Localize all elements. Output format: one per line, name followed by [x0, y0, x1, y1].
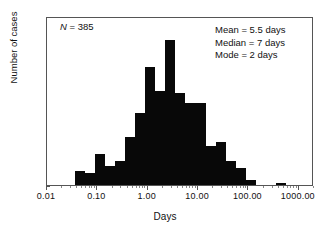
x-tick-label: 1.00 [138, 191, 156, 201]
x-tick-minor-mark [243, 186, 244, 188]
x-tick-mark [46, 186, 47, 190]
x-tick-minor-mark [81, 186, 82, 188]
x-tick-minor-mark [120, 186, 121, 188]
histogram-bar [276, 183, 286, 185]
x-tick-minor-mark [290, 186, 291, 188]
x-tick-minor-mark [189, 186, 190, 188]
x-tick-label: 10.00 [185, 191, 209, 201]
histogram-bar [206, 146, 216, 185]
x-tick-mark [247, 186, 248, 190]
x-tick-minor-mark [287, 186, 288, 188]
x-tick-mark [197, 186, 198, 190]
x-tick-minor-mark [85, 186, 86, 188]
x-tick-minor-mark [127, 186, 128, 188]
x-axis-title: Days [0, 211, 330, 222]
histogram-bar [236, 168, 246, 185]
x-tick-minor-mark [182, 186, 183, 188]
x-tick-minor-mark [192, 186, 193, 188]
x-tick-minor-mark [221, 186, 222, 188]
histogram-bar [175, 93, 185, 185]
histogram-bar [95, 154, 105, 185]
x-tick-minor-mark [263, 186, 264, 188]
x-tick-minor-mark [186, 186, 187, 188]
n-value: = 385 [67, 21, 94, 32]
histogram-bar [115, 161, 125, 185]
x-tick-minor-mark [61, 186, 62, 188]
x-tick-mark [96, 186, 97, 190]
x-tick-label: 1000.00 [281, 191, 315, 201]
x-tick-minor-mark [313, 186, 314, 188]
histogram-bar [85, 173, 95, 185]
x-tick-minor-mark [139, 186, 140, 188]
x-tick-minor-mark [142, 186, 143, 188]
x-tick-minor-mark [227, 186, 228, 188]
statistics-annotation: Mean = 5.5 days Median = 7 days Mode = 2… [215, 24, 286, 62]
histogram-bar [145, 67, 155, 185]
histogram-bar [155, 91, 165, 185]
x-tick-minor-mark [76, 186, 77, 188]
histogram-bar [105, 166, 115, 185]
x-tick-minor-mark [232, 186, 233, 188]
x-tick-minor-mark [171, 186, 172, 188]
n-symbol: N [60, 21, 67, 32]
x-tick-minor-mark [162, 186, 163, 188]
x-tick-minor-mark [177, 186, 178, 188]
x-tick-minor-mark [296, 186, 297, 188]
x-tick-minor-mark [278, 186, 279, 188]
mode-label: Mode = 2 days [215, 49, 286, 62]
x-tick-label: 0.10 [87, 191, 105, 201]
x-tick-label: 100.00 [233, 191, 262, 201]
histogram-bar [216, 142, 226, 185]
histogram-bar [226, 161, 236, 185]
x-tick-minor-mark [132, 186, 133, 188]
median-label: Median = 7 days [215, 37, 286, 50]
x-tick-minor-mark [91, 186, 92, 188]
x-tick-minor-mark [195, 186, 196, 188]
x-tick-minor-mark [136, 186, 137, 188]
x-tick-minor-mark [212, 186, 213, 188]
x-tick-minor-mark [112, 186, 113, 188]
x-tick-label: 0.01 [37, 191, 55, 201]
x-tick-minor-mark [236, 186, 237, 188]
x-tick-minor-mark [94, 186, 95, 188]
histogram-figure: Number of cases 010203040506070 0.010.10… [0, 0, 330, 234]
x-tick-minor-mark [293, 186, 294, 188]
histogram-bar [246, 180, 256, 185]
x-tick-mark [147, 186, 148, 190]
x-tick-minor-mark [144, 186, 145, 188]
x-tick-minor-mark [240, 186, 241, 188]
x-tick-mark [298, 186, 299, 190]
histogram-bar [135, 113, 145, 185]
histogram-bar [125, 137, 135, 185]
histogram-bar [196, 103, 206, 185]
histogram-bar [185, 103, 195, 185]
x-tick-minor-mark [245, 186, 246, 188]
mean-label: Mean = 5.5 days [215, 24, 286, 37]
x-tick-minor-mark [283, 186, 284, 188]
x-tick-minor-mark [272, 186, 273, 188]
x-tick-minor-mark [89, 186, 90, 188]
sample-size-annotation: N = 385 [60, 21, 94, 32]
x-tick-minor-mark [70, 186, 71, 188]
histogram-bar [75, 171, 85, 185]
histogram-bar [165, 40, 175, 185]
